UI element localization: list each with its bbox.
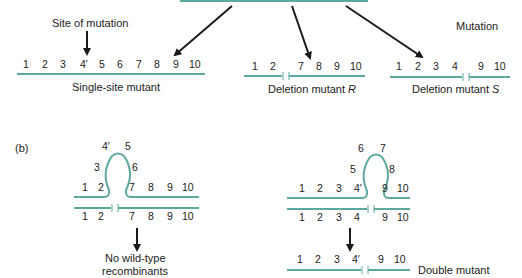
svg-text:9: 9 [478, 60, 484, 72]
panel-b-label: (b) [15, 142, 28, 154]
svg-text:10: 10 [494, 60, 506, 72]
svg-text:7: 7 [129, 181, 135, 193]
svg-text:2: 2 [98, 181, 104, 193]
svg-text:8: 8 [389, 163, 395, 175]
svg-text:2: 2 [98, 210, 104, 222]
svg-text:2: 2 [315, 253, 321, 265]
svg-text:9: 9 [167, 210, 173, 222]
svg-text:1: 1 [299, 182, 305, 194]
svg-text:4′: 4′ [354, 182, 362, 194]
svg-text:4: 4 [354, 211, 360, 223]
deletion-mutant-s: 1 2 3 4 9 10 Deletion mutant S [390, 60, 510, 95]
svg-text:3: 3 [334, 253, 340, 265]
svg-text:10: 10 [394, 253, 406, 265]
svg-text:3: 3 [60, 58, 66, 70]
svg-text:No wild-type: No wild-type [105, 252, 166, 264]
svg-text:10: 10 [397, 211, 409, 223]
svg-text:4: 4 [452, 60, 458, 72]
svg-text:8: 8 [148, 210, 154, 222]
svg-text:3: 3 [336, 211, 342, 223]
svg-text:recombinants: recombinants [102, 265, 169, 277]
svg-text:10: 10 [189, 58, 201, 70]
svg-text:9: 9 [382, 182, 388, 194]
svg-text:1: 1 [23, 58, 29, 70]
svg-text:9: 9 [173, 58, 179, 70]
svg-text:7: 7 [136, 58, 142, 70]
site-of-mutation-label: Site of mutation [52, 17, 128, 29]
svg-text:1: 1 [252, 60, 258, 72]
arrow-to-single-site [175, 6, 232, 55]
svg-text:1: 1 [82, 210, 88, 222]
deletion-mutant-r: 1 2 7 8 9 10 Deletion mutant R [244, 60, 365, 95]
svg-text:2: 2 [415, 60, 421, 72]
svg-text:1: 1 [396, 60, 402, 72]
svg-text:4′: 4′ [352, 253, 360, 265]
single-site-label: Single-site mutant [72, 81, 160, 93]
svg-text:10: 10 [182, 181, 194, 193]
svg-text:1: 1 [299, 211, 305, 223]
svg-text:2: 2 [42, 58, 48, 70]
svg-text:9: 9 [378, 253, 384, 265]
svg-text:9: 9 [334, 60, 340, 72]
svg-text:8: 8 [148, 181, 154, 193]
svg-text:9: 9 [167, 181, 173, 193]
svg-text:4′: 4′ [102, 140, 110, 152]
svg-text:6: 6 [358, 142, 364, 154]
arrow-to-deletion-s [346, 6, 422, 57]
svg-text:5: 5 [99, 58, 105, 70]
svg-text:6: 6 [117, 58, 123, 70]
svg-text:10: 10 [350, 60, 362, 72]
svg-text:2: 2 [317, 211, 323, 223]
genetics-diagram: Site of mutation Mutation 1 2 3 4′ 5 6 7… [0, 0, 522, 278]
mutation-label: Mutation [456, 20, 498, 32]
svg-text:1: 1 [297, 253, 303, 265]
svg-text:8: 8 [154, 58, 160, 70]
arrow-to-deletion-r [292, 6, 310, 58]
svg-text:5: 5 [350, 163, 356, 175]
svg-text:5: 5 [125, 140, 131, 152]
single-site-mutant: 1 2 3 4′ 5 6 7 8 9 10 Single-site mutant [17, 58, 205, 93]
svg-text:2: 2 [270, 60, 276, 72]
svg-text:10: 10 [182, 210, 194, 222]
svg-text:3: 3 [336, 182, 342, 194]
svg-text:9: 9 [382, 211, 388, 223]
svg-text:7: 7 [129, 210, 135, 222]
svg-text:8: 8 [316, 60, 322, 72]
svg-text:7: 7 [298, 60, 304, 72]
svg-text:3: 3 [433, 60, 439, 72]
svg-text:3: 3 [94, 161, 100, 173]
svg-text:2: 2 [317, 182, 323, 194]
svg-text:1: 1 [82, 181, 88, 193]
svg-text:10: 10 [397, 182, 409, 194]
double-mutant-label: Double mutant [418, 264, 490, 276]
svg-text:4′: 4′ [80, 58, 88, 70]
svg-text:6: 6 [132, 161, 138, 173]
heteroduplex-left: 3 4′ 5 6 1 2 7 8 9 10 1 2 7 8 9 10 No wi… [74, 140, 199, 277]
svg-text:Deletion mutant S: Deletion mutant S [412, 83, 500, 95]
svg-text:Deletion mutant R: Deletion mutant R [268, 83, 356, 95]
svg-text:7: 7 [380, 142, 386, 154]
heteroduplex-right: 5 6 7 8 1 2 3 4′ 9 10 1 2 3 4 9 10 1 2 3… [287, 142, 490, 276]
